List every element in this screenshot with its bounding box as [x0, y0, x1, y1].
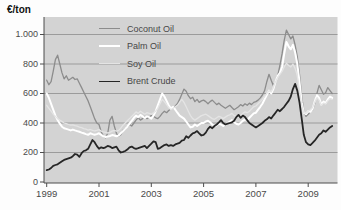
- legend-swatch-line: [99, 81, 120, 82]
- legend-label: Brent Crude: [127, 76, 176, 86]
- y-tick-label-600: 600: [5, 89, 38, 98]
- legend-swatch-line: [99, 45, 120, 47]
- legend-item-palm-oil: Palm Oil: [99, 38, 176, 56]
- legend-item-soy-oil: Soy Oil: [99, 55, 176, 73]
- x-tick-label-2009: 2009: [291, 189, 325, 199]
- legend-swatch-line: [99, 63, 120, 64]
- y-tick-label-400: 400: [5, 119, 38, 128]
- price-line-chart: €/ton 02004006008001.000 199920012003200…: [0, 0, 341, 210]
- x-tick-label-2005: 2005: [187, 189, 221, 199]
- y-tick-label-800: 800: [5, 60, 38, 69]
- legend: Coconut OilPalm OilSoy OilBrent Crude: [99, 20, 176, 90]
- legend-item-coconut-oil: Coconut Oil: [99, 20, 176, 38]
- legend-label: Palm Oil: [127, 41, 161, 51]
- x-tick-label-2001: 2001: [82, 189, 116, 199]
- legend-item-brent-crude: Brent Crude: [99, 73, 176, 91]
- legend-label: Soy Oil: [127, 59, 156, 69]
- y-tick-label-200: 200: [5, 148, 38, 157]
- x-tick-label-2007: 2007: [239, 189, 273, 199]
- x-tick-label-1999: 1999: [30, 189, 64, 199]
- x-tick-label-2003: 2003: [134, 189, 168, 199]
- legend-swatch-line: [99, 28, 120, 29]
- legend-label: Coconut Oil: [127, 24, 174, 34]
- y-tick-label-0: 0: [5, 178, 38, 187]
- y-tick-label-1000: 1.000: [5, 30, 38, 39]
